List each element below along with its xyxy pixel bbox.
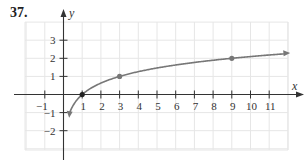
curve-arrow-right-icon <box>283 50 290 56</box>
x-tick-label: 3 <box>118 100 124 112</box>
x-tick-label: 7 <box>193 100 199 112</box>
y-tick-label: −1 <box>44 107 56 119</box>
data-point <box>117 74 122 79</box>
data-point <box>80 92 85 97</box>
axes <box>14 9 304 160</box>
y-axis-label: y <box>68 6 75 20</box>
x-tick-label: 8 <box>211 100 217 112</box>
y-tick-label: 1 <box>50 70 56 82</box>
curve-arrow-down-icon <box>67 111 73 118</box>
x-tick-label: 1 <box>80 100 86 112</box>
y-tick-label: −2 <box>44 125 56 137</box>
x-tick-label: 11 <box>265 100 276 112</box>
log-function-graph: −11234567891011321−1−2 x y <box>0 0 308 162</box>
x-tick-label: 6 <box>174 100 180 112</box>
y-tick-label: 2 <box>50 52 56 64</box>
y-tick-label: 3 <box>50 34 56 46</box>
x-tick-label: 9 <box>230 100 236 112</box>
x-tick-label: 10 <box>246 100 258 112</box>
x-tick-label: 5 <box>155 100 161 112</box>
x-axis-label: x <box>291 79 298 93</box>
x-tick-label: 4 <box>137 100 143 112</box>
data-point <box>229 56 234 61</box>
x-tick-label: 2 <box>99 100 105 112</box>
tick-labels: −11234567891011321−1−2 <box>36 34 276 137</box>
y-axis-arrow-icon <box>61 9 67 17</box>
